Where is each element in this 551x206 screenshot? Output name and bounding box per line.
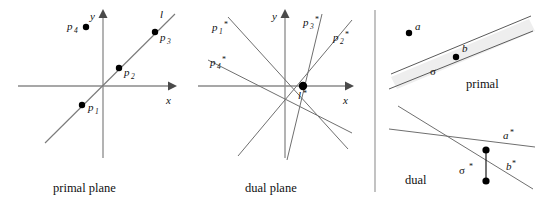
svg-text:*: * [345, 30, 349, 39]
dual-label-a-star: a * [503, 128, 514, 141]
panel-dual-plane: p 1 * p 2 * p 3 * p 4 * l * x y dual pla… [198, 9, 354, 195]
point-a [406, 30, 412, 36]
dual-segment-sigma-star [482, 146, 489, 184]
svg-text:*: * [222, 55, 226, 64]
point-p3 [152, 29, 158, 35]
dual-label-p1-star: p 1 * [211, 20, 228, 36]
primal-x-axis-label: x [165, 94, 171, 106]
slab-label-sigma: σ [430, 65, 436, 77]
svg-text:p: p [332, 31, 339, 43]
svg-text:*: * [303, 89, 307, 98]
point-p4 [83, 24, 89, 30]
primal-x-axis [18, 82, 177, 91]
svg-text:1: 1 [219, 27, 223, 36]
point-label-b: b [462, 42, 468, 54]
svg-text:*: * [510, 128, 514, 137]
svg-text:4: 4 [217, 62, 221, 71]
sigma-star-bottom-dot [482, 177, 489, 184]
dual-label-p2-star: p 2 * [332, 30, 349, 46]
figure-canvas: p 1 p 2 p 3 p 4 l x y primal plane [0, 0, 551, 206]
sigma-star-top-dot [482, 146, 489, 153]
svg-text:4: 4 [74, 26, 78, 35]
caption-dual: dual [405, 173, 427, 187]
point-label-p2: p 2 [123, 66, 135, 81]
dual-label-sigma-star: σ * [459, 162, 473, 176]
dual-label-b-star: b * [506, 159, 516, 172]
slab-lower-boundary [389, 31, 533, 89]
svg-text:p: p [87, 101, 94, 113]
point-p2 [116, 65, 122, 71]
primal-y-axis-label: y [89, 10, 95, 22]
point-label-p4: p 4 [66, 20, 78, 35]
caption-primal: primal [466, 77, 499, 91]
point-label-p3: p 3 [159, 31, 171, 46]
point-p1 [79, 102, 85, 108]
panel-primal-plane: p 1 p 2 p 3 p 4 l x y primal plane [18, 8, 177, 195]
svg-text:*: * [512, 159, 516, 168]
svg-text:2: 2 [340, 37, 344, 46]
svg-text:p: p [211, 21, 218, 33]
panel-primal-dual-pair: a b σ primal a * b * σ * dual [389, 16, 535, 189]
point-b [453, 54, 459, 60]
dual-label-p3-star: p 3 * [302, 15, 319, 31]
svg-text:p: p [123, 66, 130, 78]
caption-primal-plane: primal plane [53, 181, 116, 195]
primal-y-axis [99, 9, 108, 158]
svg-text:*: * [224, 20, 228, 29]
dual-x-axis [198, 82, 354, 91]
svg-text:p: p [302, 16, 309, 28]
dual-line-p4-star [208, 60, 352, 133]
dual-line-p1-star [228, 17, 348, 149]
dual-label-p4-star: p 4 * [209, 55, 226, 71]
primal-line-label-l: l [160, 8, 163, 20]
svg-text:*: * [469, 162, 473, 171]
svg-text:p: p [66, 20, 73, 32]
svg-text:3: 3 [309, 22, 314, 31]
dual-y-axis-label: y [271, 10, 277, 22]
svg-text:σ: σ [459, 164, 465, 176]
svg-text:1: 1 [95, 107, 99, 116]
caption-dual-plane: dual plane [245, 181, 297, 195]
point-label-a: a [415, 20, 421, 32]
point-label-p1: p 1 [87, 101, 99, 116]
svg-text:*: * [315, 15, 319, 24]
svg-text:2: 2 [131, 72, 135, 81]
svg-text:3: 3 [166, 37, 171, 46]
slab-upper-boundary [391, 16, 531, 74]
svg-text:p: p [209, 56, 216, 68]
duality-figure: p 1 p 2 p 3 p 4 l x y primal plane [0, 0, 551, 206]
svg-text:l: l [298, 89, 301, 101]
dual-x-axis-label: x [342, 94, 348, 106]
svg-text:a: a [503, 129, 509, 141]
svg-text:p: p [159, 31, 166, 43]
